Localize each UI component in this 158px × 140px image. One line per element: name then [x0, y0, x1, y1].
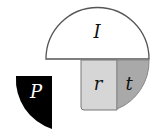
- piece-I: I: [46, 8, 149, 60]
- piece-I-label: I: [92, 21, 101, 42]
- piece-t: t: [117, 60, 149, 109]
- piece-t-label: t: [125, 73, 133, 94]
- piece-r: r: [81, 60, 117, 110]
- piece-P-label: P: [29, 81, 43, 102]
- geometric-pieces-diagram: I r t P: [0, 0, 158, 140]
- piece-r-label: r: [94, 73, 104, 94]
- piece-P: P: [16, 76, 52, 129]
